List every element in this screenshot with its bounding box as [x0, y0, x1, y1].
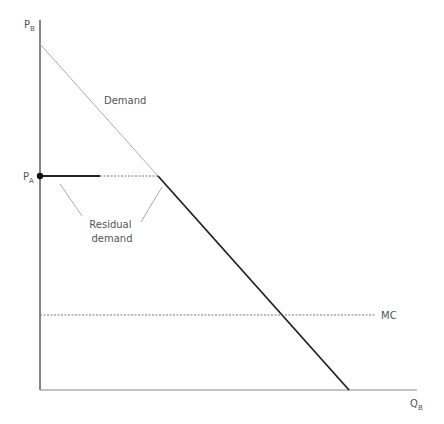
demand-curve — [40, 44, 158, 176]
y-axis-label: PB — [24, 19, 35, 33]
pa-label: PA — [23, 171, 34, 185]
residual-demand-label: Residual demand — [89, 219, 134, 244]
demand-label: Demand — [104, 95, 146, 106]
pa-point — [37, 173, 43, 179]
residual-demand-sloped — [158, 176, 349, 390]
x-axis-label: QB — [410, 398, 423, 412]
residual-leader-right — [141, 187, 162, 222]
residual-demand-diagram: PB QB Demand PA Residual demand MC — [0, 0, 444, 424]
mc-label: MC — [381, 310, 397, 321]
residual-leader-left — [60, 184, 82, 216]
